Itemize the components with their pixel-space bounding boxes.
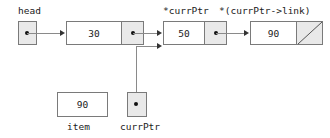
node90-value-cell: 90 bbox=[250, 21, 297, 45]
linked-list-diagram: head 30 *currPtr *(currPtr->link) 50 90 … bbox=[0, 0, 330, 138]
head-label: head bbox=[18, 5, 41, 16]
next-node-deref-label: *(currPtr->link) bbox=[219, 5, 311, 16]
currptr-label: currPtr bbox=[120, 121, 160, 132]
currptr-vertical-line bbox=[136, 46, 137, 93]
node50-to-node90-line bbox=[216, 33, 245, 34]
currptr-pointer-dot bbox=[134, 102, 138, 106]
item-value-box: 90 bbox=[57, 92, 108, 117]
item-label: item bbox=[67, 121, 90, 132]
head-to-node30-arrowhead bbox=[60, 30, 65, 36]
node30-to-node50-line bbox=[133, 33, 158, 34]
currptr-to-node50-arrowhead bbox=[157, 43, 162, 49]
head-to-node30-line bbox=[27, 33, 61, 34]
node50-value-cell: 50 bbox=[163, 21, 205, 45]
node30-to-node50-arrowhead bbox=[157, 30, 162, 36]
node30-value-cell: 30 bbox=[66, 21, 122, 45]
curr-ptr-deref-label: *currPtr bbox=[163, 5, 209, 16]
node50-to-node90-arrowhead bbox=[244, 30, 249, 36]
currptr-horizontal-line bbox=[136, 46, 158, 47]
null-slash-icon bbox=[297, 21, 323, 45]
